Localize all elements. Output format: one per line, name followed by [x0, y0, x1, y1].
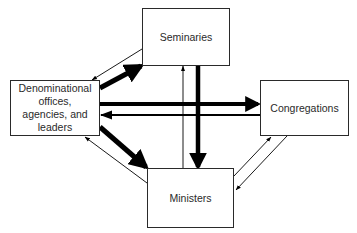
edge-denominational-to-seminaries — [100, 66, 141, 88]
node-label: Denominational offices, agencies, and le… — [19, 82, 92, 134]
node-label: Seminaries — [160, 31, 213, 44]
edge-denominational-to-ministers — [100, 127, 146, 167]
node-label: Congregations — [270, 102, 338, 115]
edge-congregations-to-ministers — [236, 136, 287, 190]
edge-ministers-to-congregations — [234, 137, 271, 176]
edge-seminaries-to-denominational — [92, 49, 142, 80]
node-congregations: Congregations — [260, 80, 349, 136]
node-seminaries: Seminaries — [142, 8, 230, 66]
node-ministers: Ministers — [147, 168, 234, 228]
node-label: Ministers — [169, 192, 211, 205]
node-denominational-offices: Denominational offices, agencies, and le… — [10, 80, 100, 136]
